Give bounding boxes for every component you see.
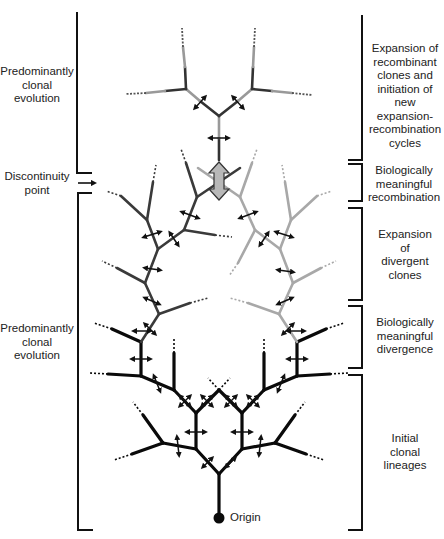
left-bracket-bottom [78, 193, 93, 530]
label-expansion-divergent: Expansion of divergent clones [366, 228, 444, 282]
label-meaningful-divergence: Biologically meaningful divergence [366, 316, 444, 357]
label-top-clonal-evolution: Predominantly clonal evolution [0, 65, 74, 106]
origin-label: Origin [230, 511, 261, 523]
initial-lineages-tree [108, 329, 330, 517]
left-bracket-top [77, 12, 92, 173]
divergent-right-dotted-tips [229, 149, 336, 303]
label-bottom-clonal-evolution: Predominantly clonal evolution [0, 322, 74, 363]
label-expansion-recombinant: Expansion of recombinant clones and init… [366, 42, 444, 150]
right-brackets [348, 15, 362, 530]
recombinant-tree [146, 47, 292, 160]
origin-dot-icon [214, 513, 225, 524]
recombinant-dotted-tips [126, 28, 312, 95]
label-meaningful-recombination: Biologically meaningful recombination [364, 164, 444, 205]
label-initial-lineages: Initial clonal lineages [366, 432, 444, 473]
recombination-arrow-icon [209, 162, 229, 200]
label-discontinuity-point: Discontinuity point [0, 170, 74, 197]
